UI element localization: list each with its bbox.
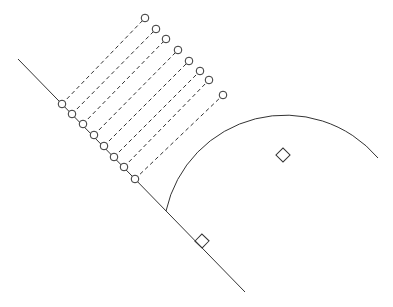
offset-point: [219, 91, 227, 99]
right-angle-marker: [195, 234, 209, 248]
baseline-point: [100, 142, 108, 150]
offset-point: [152, 25, 160, 33]
offset-point: [196, 67, 204, 75]
projection-lines: [62, 18, 223, 179]
projection-points: [58, 14, 227, 183]
offset-point: [185, 57, 193, 65]
dashed-projection-line: [104, 61, 189, 146]
offset-point: [174, 46, 182, 54]
baseline-point: [90, 131, 98, 139]
center-diamond-marker: [276, 148, 290, 162]
diagram-svg: [0, 0, 393, 307]
baseline-point: [79, 120, 87, 128]
offset-point: [162, 35, 170, 43]
dashed-projection-line: [135, 95, 223, 179]
dashed-projection-line: [62, 18, 145, 104]
dashed-projection-line: [114, 71, 200, 157]
baseline-point: [58, 100, 66, 108]
baseline-point: [110, 153, 118, 161]
dashed-projection-line: [83, 39, 166, 124]
baseline-point: [120, 163, 128, 171]
tangent-arc: [166, 115, 378, 211]
offset-point: [141, 14, 149, 22]
baseline: [18, 59, 245, 292]
diagram-canvas: [0, 0, 393, 307]
dashed-projection-line: [72, 29, 156, 114]
dashed-projection-line: [94, 50, 178, 135]
baseline-point: [131, 175, 139, 183]
baseline-point: [68, 110, 76, 118]
offset-point: [205, 76, 213, 84]
